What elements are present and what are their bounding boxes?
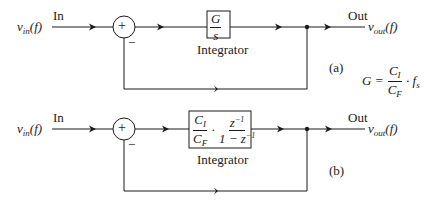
junction-dot-a (305, 25, 309, 29)
output-signal-b: vout(f) (368, 122, 398, 138)
in-label-a: In (53, 9, 64, 22)
integrator-b-transfer: CICF · z−11 − z−1 (192, 113, 256, 149)
summer-plus-a: + (118, 19, 126, 33)
output-signal-a: vout(f) (368, 20, 398, 36)
integrator-b-caption: Integrator (197, 153, 248, 166)
input-signal-a: vin(f) (17, 20, 42, 36)
integrator-a-caption: Integrator (197, 43, 248, 56)
diagram-b-tag: (b) (329, 164, 344, 177)
out-label-b: Out (348, 111, 368, 124)
summer-minus-a: − (128, 36, 135, 49)
input-signal-b: vin(f) (17, 122, 42, 138)
diagram-a-tag: (a) (329, 61, 343, 74)
summer-plus-b: + (118, 121, 126, 135)
integrator-a-transfer: Gs (210, 12, 221, 42)
out-label-a: Out (348, 9, 368, 22)
summer-minus-b: − (128, 138, 135, 151)
gain-equation: G = CICF · fs (362, 64, 420, 100)
in-label-b: In (53, 111, 64, 124)
junction-dot-b (305, 127, 309, 131)
